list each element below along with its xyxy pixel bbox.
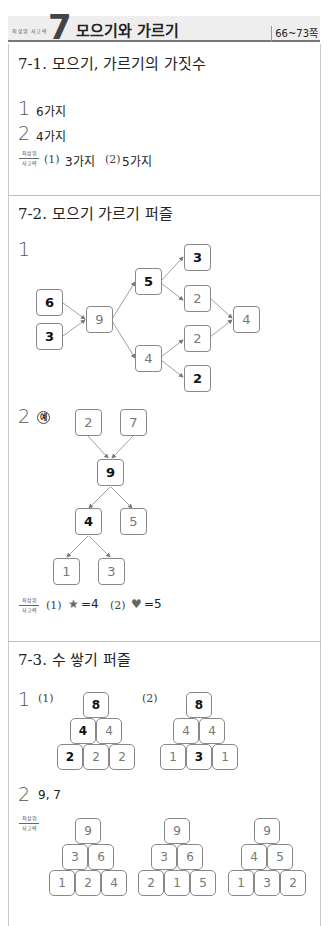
pyramid-cell: 3 xyxy=(186,744,212,770)
pyramid-cell: 1 xyxy=(49,870,75,896)
challenge-tag: 최상위 사고력 xyxy=(19,597,39,614)
pyramid-cell: 1 xyxy=(212,744,238,770)
pyramid-cell: 8 xyxy=(83,692,109,718)
diagram-node: 2 xyxy=(184,365,211,392)
tag-divider xyxy=(19,605,39,606)
tag-top: 최상위 xyxy=(19,815,39,822)
diagram-node: 9 xyxy=(97,459,124,486)
part-label: (1) xyxy=(46,599,62,612)
pyramid-cell: 9 xyxy=(164,818,190,844)
pyramid-cell: 9 xyxy=(75,818,101,844)
pyramid-cell: 3 xyxy=(254,870,280,896)
diagram-node: 3 xyxy=(184,244,211,271)
pyramid-cell: 4 xyxy=(241,844,267,870)
part-label: (1) xyxy=(38,692,54,705)
pyramid-cell: 4 xyxy=(101,870,127,896)
pyramid-cell: 2 xyxy=(57,744,83,770)
example-badge: 예 xyxy=(37,411,50,424)
question-number: 2 xyxy=(18,783,30,805)
diagram-node: 9 xyxy=(86,306,113,333)
answer-text: =5 xyxy=(144,597,162,611)
pyramid-cell: 4 xyxy=(96,718,122,744)
pyramid-cell: 5 xyxy=(190,870,216,896)
pyramid-cell: 2 xyxy=(280,870,306,896)
answer-text: =4 xyxy=(81,597,99,611)
diagram-node: 7 xyxy=(120,409,147,436)
answer-text: 9, 7 xyxy=(38,788,61,802)
pyramid-cell: 4 xyxy=(173,718,199,744)
diagram-node: 3 xyxy=(36,323,63,350)
star-icon: ★ xyxy=(68,597,79,611)
diagram-node: 4 xyxy=(135,345,162,372)
pyramid-cell: 4 xyxy=(199,718,225,744)
pyramid-cell: 5 xyxy=(267,844,293,870)
pyramid-cell: 2 xyxy=(138,870,164,896)
pyramid-cell: 3 xyxy=(151,844,177,870)
pyramid-cell: 8 xyxy=(186,692,212,718)
pyramid-cell: 1 xyxy=(164,870,190,896)
diagram-node: 5 xyxy=(120,508,147,535)
pyramid-cell: 1 xyxy=(228,870,254,896)
question-number: 1 xyxy=(18,688,30,710)
tag-bottom: 사고력 xyxy=(19,607,39,614)
part-label: (2) xyxy=(110,599,126,612)
diagram-node: 4 xyxy=(75,508,102,535)
pyramid-cell: 6 xyxy=(177,844,203,870)
heart-icon: ♥ xyxy=(131,597,142,611)
tag-bottom: 사고력 xyxy=(19,825,39,832)
section-title-7-3: 7-3. 수 쌓기 퍼즐 xyxy=(18,648,131,669)
diagram-node: 6 xyxy=(36,289,63,316)
section-divider xyxy=(8,641,321,642)
diagram-node: 2 xyxy=(75,409,102,436)
diagram-node: 3 xyxy=(98,558,125,585)
challenge-tag: 최상위 사고력 xyxy=(19,815,39,832)
pyramid-cell: 6 xyxy=(88,844,114,870)
pyramid-cell: 2 xyxy=(109,744,135,770)
pyramid-cell: 4 xyxy=(70,718,96,744)
diagram-node: 4 xyxy=(233,306,260,333)
pyramid-cell: 3 xyxy=(62,844,88,870)
tag-divider xyxy=(19,823,39,824)
pyramid-cell: 2 xyxy=(75,870,101,896)
diagram-node: 1 xyxy=(53,558,80,585)
diagram-node: 2 xyxy=(184,325,211,352)
pyramid-cell: 1 xyxy=(160,744,186,770)
diagram-node: 5 xyxy=(135,268,162,295)
part-label: (2) xyxy=(142,692,158,705)
pyramid-cell: 9 xyxy=(254,818,280,844)
pyramid-cell: 2 xyxy=(83,744,109,770)
diagram-node: 2 xyxy=(184,285,211,312)
tag-top: 최상위 xyxy=(19,597,39,604)
question-number: 2 xyxy=(18,405,30,427)
